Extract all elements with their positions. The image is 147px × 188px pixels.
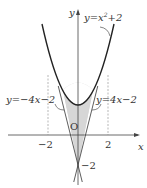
graph: y x O −2 2 −2 y=x2+2 y=−4x−2 y=4x−2 bbox=[0, 0, 147, 188]
tick-neg2: −2 bbox=[38, 139, 53, 150]
y-intercept-label: −2 bbox=[81, 160, 96, 171]
tick-pos2: 2 bbox=[105, 139, 111, 150]
y-axis-arrow-icon bbox=[76, 9, 80, 15]
y-axis-label: y bbox=[68, 7, 75, 18]
curve-pointer bbox=[100, 27, 110, 36]
origin-label: O bbox=[70, 121, 78, 132]
x-axis-arrow-icon bbox=[134, 133, 140, 137]
left-line-label: y=−4x−2 bbox=[5, 94, 55, 105]
curve-label: y=x2+2 bbox=[83, 11, 122, 23]
right-line-label: y=4x−2 bbox=[95, 94, 137, 105]
x-axis-label: x bbox=[138, 141, 144, 152]
